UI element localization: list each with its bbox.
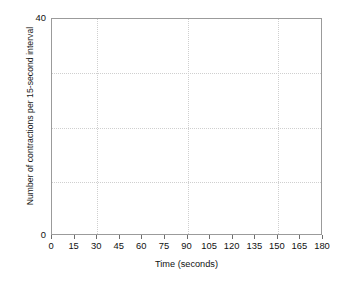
x-axis-tick-label-30: 30 xyxy=(91,241,101,250)
x-axis-tick-label-0: 0 xyxy=(48,241,53,250)
x-axis-tick-90 xyxy=(187,235,188,239)
x-axis-tick-30 xyxy=(96,235,97,239)
y-axis-tick-label-0: 0 xyxy=(22,230,46,239)
chart-figure: Number of contractions per 15-second int… xyxy=(0,0,346,284)
x-axis-tick-label-90: 90 xyxy=(181,241,191,250)
x-axis-tick-label-60: 60 xyxy=(136,241,146,250)
x-axis-tick-150 xyxy=(277,235,278,239)
x-axis-tick-75 xyxy=(164,235,165,239)
y-axis-title: Number of contractions per 15-second int… xyxy=(25,0,35,232)
data-series-layer xyxy=(52,19,321,234)
x-axis-tick-60 xyxy=(141,235,142,239)
x-axis-tick-105 xyxy=(209,235,210,239)
x-axis-tick-135 xyxy=(254,235,255,239)
x-axis-tick-label-135: 135 xyxy=(246,241,262,250)
x-axis-title: Time (seconds) xyxy=(51,259,322,269)
x-axis-tick-label-180: 180 xyxy=(314,241,330,250)
y-axis-tick-label-40: 40 xyxy=(22,13,46,22)
x-axis-tick-label-105: 105 xyxy=(201,241,217,250)
x-axis-tick-120 xyxy=(232,235,233,239)
x-axis-tick-15 xyxy=(74,235,75,239)
x-axis-tick-label-165: 165 xyxy=(292,241,308,250)
x-axis-tick-180 xyxy=(322,235,323,239)
x-axis-tick-label-45: 45 xyxy=(114,241,124,250)
x-axis-tick-45 xyxy=(119,235,120,239)
x-axis-tick-0 xyxy=(51,235,52,239)
x-axis-tick-165 xyxy=(299,235,300,239)
x-axis-tick-label-120: 120 xyxy=(224,241,240,250)
x-axis-tick-labels: 0153045607590105120135150165180 xyxy=(51,241,322,255)
x-axis-tick-label-75: 75 xyxy=(159,241,169,250)
x-axis-tick-label-150: 150 xyxy=(269,241,285,250)
x-axis-tick-label-15: 15 xyxy=(68,241,78,250)
plot-area xyxy=(51,18,322,235)
